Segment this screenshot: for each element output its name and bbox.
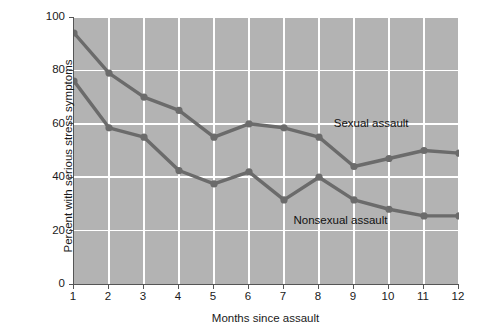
data-point <box>420 212 427 219</box>
x-tick-label: 6 <box>236 291 260 303</box>
data-point <box>175 107 182 114</box>
x-tick-mark <box>318 285 319 289</box>
y-tick-mark <box>69 17 73 18</box>
series-line-1 <box>74 81 459 216</box>
data-point <box>210 134 217 141</box>
chart-figure: 020406080100 123456789101112 Percent wit… <box>0 0 487 334</box>
data-point <box>385 155 392 162</box>
y-axis-title-host: Percent with serious stress symptoms <box>24 20 40 284</box>
data-point <box>140 134 147 141</box>
x-tick-mark <box>283 285 284 289</box>
data-point <box>245 168 252 175</box>
x-tick-label: 1 <box>61 291 85 303</box>
x-tick-label: 4 <box>166 291 190 303</box>
data-point <box>280 196 287 203</box>
x-tick-mark <box>178 285 179 289</box>
x-tick-label: 10 <box>376 291 400 303</box>
x-tick-mark <box>143 285 144 289</box>
data-point <box>105 124 112 131</box>
x-tick-mark <box>423 285 424 289</box>
data-point <box>455 212 459 219</box>
series-line-0 <box>74 33 459 167</box>
x-tick-label: 3 <box>131 291 155 303</box>
data-point <box>140 94 147 101</box>
data-point <box>280 124 287 131</box>
x-tick-label: 7 <box>271 291 295 303</box>
x-tick-label: 8 <box>306 291 330 303</box>
x-axis-title: Months since assault <box>73 312 458 324</box>
x-tick-mark <box>213 285 214 289</box>
series-label-nonsexual-assault: Nonsexual assault <box>294 214 388 226</box>
data-point <box>315 134 322 141</box>
data-point <box>350 196 357 203</box>
data-point <box>210 180 217 187</box>
data-point <box>420 147 427 154</box>
data-point <box>175 167 182 174</box>
data-point <box>385 206 392 213</box>
data-point <box>350 163 357 170</box>
x-tick-label: 12 <box>446 291 470 303</box>
y-axis-title: Percent with serious stress symptoms <box>62 31 74 281</box>
series-label-sexual-assault: Sexual assault <box>334 117 409 129</box>
x-tick-mark <box>388 285 389 289</box>
x-tick-label: 11 <box>411 291 435 303</box>
data-series-layer <box>74 17 459 284</box>
x-tick-mark <box>353 285 354 289</box>
x-tick-mark <box>458 285 459 289</box>
data-point <box>105 69 112 76</box>
x-tick-label: 5 <box>201 291 225 303</box>
plot-area <box>73 17 459 285</box>
x-tick-mark <box>108 285 109 289</box>
x-tick-mark <box>73 285 74 289</box>
x-tick-label: 9 <box>341 291 365 303</box>
data-point <box>245 120 252 127</box>
x-tick-mark <box>248 285 249 289</box>
data-point <box>455 150 459 157</box>
x-tick-label: 2 <box>96 291 120 303</box>
data-point <box>315 174 322 181</box>
